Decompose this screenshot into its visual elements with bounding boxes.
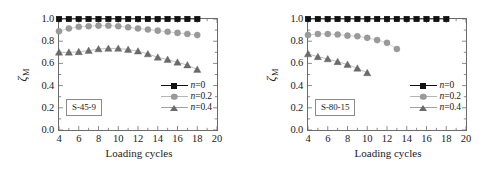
legend-item[interactable]: n=0.2 bbox=[161, 91, 213, 102]
legend-left: n=0 n=0.2 n=0.4 bbox=[161, 80, 213, 113]
x-tick-label: 16 bbox=[421, 134, 432, 145]
y-tick-label: 0.4 bbox=[41, 80, 54, 91]
x-tick-label: 12 bbox=[382, 134, 393, 145]
y-axis-symbol: ζ bbox=[14, 76, 29, 81]
x-tick-label: 20 bbox=[461, 134, 472, 145]
y-tick-label: 0.4 bbox=[290, 80, 303, 91]
sample-id-box-left: S-45-9 bbox=[66, 99, 102, 117]
x-tick-label: 18 bbox=[441, 134, 452, 145]
triangle-marker-icon bbox=[170, 105, 178, 111]
y-axis-title: ζM bbox=[14, 68, 30, 81]
y-tick-label: 1.0 bbox=[290, 14, 303, 25]
legend-key-square bbox=[410, 80, 437, 91]
x-tick-label: 20 bbox=[212, 134, 223, 145]
x-tick-label: 6 bbox=[325, 134, 330, 145]
y-axis-symbol: ζ bbox=[263, 76, 278, 81]
x-tick-label: 14 bbox=[402, 134, 413, 145]
legend-key-triangle bbox=[161, 102, 188, 113]
x-tick-label: 14 bbox=[153, 134, 164, 145]
legend-key-circle bbox=[161, 91, 188, 102]
chart-panel-right: 0.0 0.2 0.4 0.6 0.8 1.0 4 6 8 10 12 14 1… bbox=[245, 0, 489, 177]
legend-right: n=0 n=0.2 n=0.4 bbox=[410, 80, 462, 113]
legend-label: n=0.4 bbox=[440, 103, 462, 113]
x-tick-label: 10 bbox=[113, 134, 124, 145]
y-tick-label: 0.6 bbox=[41, 58, 54, 69]
plot-area-left: 0.0 0.2 0.4 0.6 0.8 1.0 4 6 8 10 12 14 1… bbox=[58, 18, 218, 131]
circle-marker-icon bbox=[420, 93, 427, 100]
legend-key-triangle bbox=[410, 102, 437, 113]
plot-area-right: 0.0 0.2 0.4 0.6 0.8 1.0 4 6 8 10 12 14 1… bbox=[307, 18, 467, 131]
y-tick-label: 0.0 bbox=[290, 125, 303, 136]
x-tick-label: 18 bbox=[192, 134, 203, 145]
y-tick-label: 0.0 bbox=[41, 125, 54, 136]
square-marker-icon bbox=[171, 83, 177, 89]
legend-key-square bbox=[161, 80, 188, 91]
triangle-marker-icon bbox=[419, 105, 427, 111]
x-axis-title: Loading cycles bbox=[59, 147, 219, 159]
y-tick-label: 0.2 bbox=[41, 103, 54, 114]
x-tick-label: 8 bbox=[96, 134, 101, 145]
y-tick-label: 0.2 bbox=[290, 103, 303, 114]
legend-item[interactable]: n=0.4 bbox=[410, 102, 462, 113]
circle-marker-icon bbox=[171, 93, 178, 100]
y-axis-subscript: M bbox=[269, 68, 279, 76]
x-tick-label: 4 bbox=[305, 134, 310, 145]
legend-label: n=0 bbox=[440, 81, 455, 91]
x-tick-label: 8 bbox=[345, 134, 350, 145]
legend-key-circle bbox=[410, 91, 437, 102]
sample-id-box-right: S-80-15 bbox=[315, 99, 355, 117]
x-tick-label: 16 bbox=[172, 134, 183, 145]
legend-label: n=0.4 bbox=[191, 103, 213, 113]
legend-label: n=0.2 bbox=[191, 92, 213, 102]
x-tick-label: 6 bbox=[76, 134, 81, 145]
legend-item[interactable]: n=0 bbox=[161, 80, 213, 91]
legend-label: n=0 bbox=[191, 81, 206, 91]
y-tick-label: 0.6 bbox=[290, 58, 303, 69]
legend-label: n=0.2 bbox=[440, 92, 462, 102]
x-tick-label: 10 bbox=[362, 134, 373, 145]
y-axis-title: ζM bbox=[263, 68, 279, 81]
y-tick-label: 0.8 bbox=[41, 36, 54, 47]
chart-panel-left: 0.0 0.2 0.4 0.6 0.8 1.0 4 6 8 10 12 14 1… bbox=[0, 0, 244, 177]
square-marker-icon bbox=[420, 83, 426, 89]
legend-item[interactable]: n=0.2 bbox=[410, 91, 462, 102]
y-tick-label: 0.8 bbox=[290, 36, 303, 47]
y-tick-label: 1.0 bbox=[41, 14, 54, 25]
x-tick-label: 4 bbox=[56, 134, 61, 145]
figure-container: 0.0 0.2 0.4 0.6 0.8 1.0 4 6 8 10 12 14 1… bbox=[0, 0, 489, 177]
x-axis-title: Loading cycles bbox=[308, 147, 468, 159]
x-tick-label: 12 bbox=[133, 134, 144, 145]
legend-item[interactable]: n=0 bbox=[410, 80, 462, 91]
legend-item[interactable]: n=0.4 bbox=[161, 102, 213, 113]
y-axis-subscript: M bbox=[20, 68, 30, 76]
